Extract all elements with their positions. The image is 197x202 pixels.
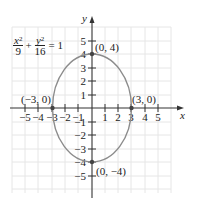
x-tick-labels: −5 −4 −3 −2 −1 1 2 3 4 5 <box>19 111 161 123</box>
svg-text:−2: −2 <box>59 111 71 123</box>
svg-text:−5: −5 <box>74 170 86 182</box>
svg-text:−5: −5 <box>19 111 31 123</box>
ellipse-equation: x2 9 + y2 16 = 1 <box>13 34 63 56</box>
svg-text:1: 1 <box>102 111 108 123</box>
equation-rhs: = 1 <box>49 39 63 51</box>
svg-text:−2: −2 <box>74 129 86 141</box>
fraction-y: y2 16 <box>34 34 47 56</box>
x-axis-label: x <box>179 109 185 121</box>
vertex-right-point <box>129 106 133 110</box>
svg-text:1: 1 <box>81 89 87 101</box>
point-label-bottom: (0, −4) <box>96 165 126 178</box>
svg-text:2: 2 <box>81 75 87 87</box>
svg-text:−1: −1 <box>74 116 86 128</box>
point-label-left: (−3, 0) <box>21 93 51 106</box>
vertex-bottom-point <box>90 160 94 164</box>
svg-text:2: 2 <box>115 111 121 123</box>
vertex-top-point <box>90 52 94 56</box>
svg-text:4: 4 <box>142 111 148 123</box>
svg-text:5: 5 <box>81 35 87 47</box>
svg-text:−4: −4 <box>32 111 44 123</box>
y-axis-arrow-icon <box>90 16 95 23</box>
vertex-left-point <box>50 106 54 110</box>
point-label-right: (3, 0) <box>132 93 156 106</box>
svg-text:3: 3 <box>81 62 87 74</box>
svg-text:5: 5 <box>155 111 161 123</box>
point-label-top: (0, 4) <box>95 41 119 54</box>
fraction-x: x2 9 <box>13 34 23 56</box>
plus-sign: + <box>25 39 31 51</box>
svg-text:−3: −3 <box>74 143 86 155</box>
ellipse-graph: −5 −4 −3 −2 −1 1 2 3 4 5 x 5 4 3 2 1 −1 … <box>0 0 197 202</box>
y-axis-label: y <box>81 12 87 24</box>
